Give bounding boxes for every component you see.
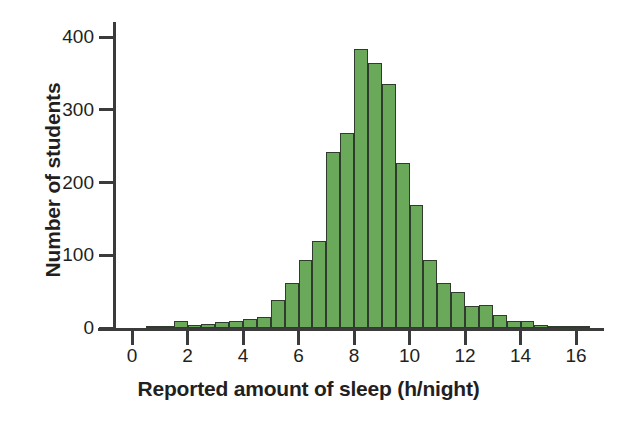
histogram-bar — [368, 63, 382, 328]
x-tick-mark — [186, 331, 189, 345]
x-tick-mark — [131, 331, 134, 345]
y-tick-mark — [99, 108, 114, 111]
histogram-bar — [507, 321, 521, 328]
x-tick-label: 12 — [445, 346, 485, 365]
x-tick-label: 8 — [334, 346, 374, 365]
x-tick-mark — [519, 331, 522, 345]
y-tick-mark — [99, 181, 114, 184]
x-tick-mark — [575, 331, 578, 345]
x-tick-mark — [353, 331, 356, 345]
y-tick-mark — [99, 36, 114, 39]
histogram-bar — [229, 321, 243, 328]
histogram-bar — [437, 283, 451, 328]
x-tick-label: 4 — [223, 346, 263, 365]
x-tick-mark — [408, 331, 411, 345]
histogram-bar — [326, 152, 340, 328]
y-tick-mark — [99, 327, 114, 330]
histogram-bar — [521, 321, 535, 328]
x-tick-label: 6 — [279, 346, 319, 365]
histogram-bar — [299, 260, 313, 328]
x-tick-mark — [464, 331, 467, 345]
histogram-bar — [285, 283, 299, 328]
x-tick-mark — [297, 331, 300, 345]
y-axis-line — [113, 22, 116, 330]
histogram-bar — [243, 319, 257, 328]
histogram-bar — [271, 300, 285, 328]
x-axis-title: Reported amount of sleep (h/night) — [0, 377, 617, 401]
histogram-bar — [354, 49, 368, 328]
x-axis-line — [98, 328, 604, 331]
x-tick-label: 16 — [556, 346, 596, 365]
histogram-bar — [382, 84, 396, 328]
x-tick-label: 2 — [168, 346, 208, 365]
histogram-bar — [257, 317, 271, 328]
histogram-bar — [174, 321, 188, 328]
histogram-figure: 0100200300400 0246810121416 Number of st… — [0, 0, 617, 428]
y-tick-mark — [99, 254, 114, 257]
x-tick-label: 0 — [112, 346, 152, 365]
histogram-bar — [340, 133, 354, 328]
x-tick-label: 10 — [390, 346, 430, 365]
histogram-bar — [410, 205, 424, 328]
histogram-bar — [479, 305, 493, 328]
histogram-bar — [451, 292, 465, 328]
x-tick-mark — [242, 331, 245, 345]
x-tick-label: 14 — [501, 346, 541, 365]
histogram-bar — [493, 315, 507, 328]
histogram-bar — [312, 241, 326, 328]
histogram-bar — [396, 163, 410, 328]
histogram-bar — [423, 260, 437, 328]
histogram-bar — [465, 306, 479, 328]
y-axis-title: Number of students — [41, 35, 65, 325]
